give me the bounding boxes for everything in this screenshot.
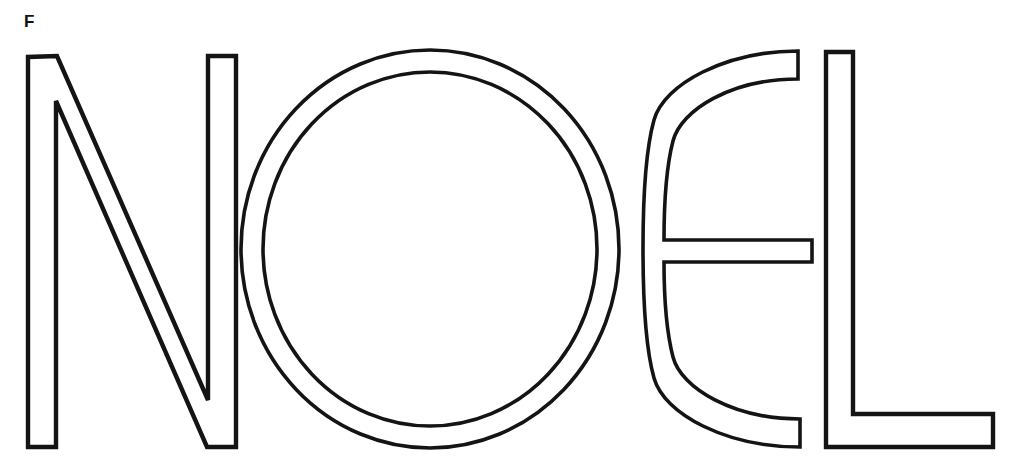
noel-outline-artwork: NOEL outline lettering: [0, 0, 1010, 458]
coloring-page: F NOEL outline lettering: [0, 0, 1010, 458]
letter-o-outline: [241, 50, 619, 448]
letter-n-outline: [28, 56, 236, 447]
letter-l-outline: [826, 52, 993, 447]
letter-e-outline: [643, 51, 812, 447]
